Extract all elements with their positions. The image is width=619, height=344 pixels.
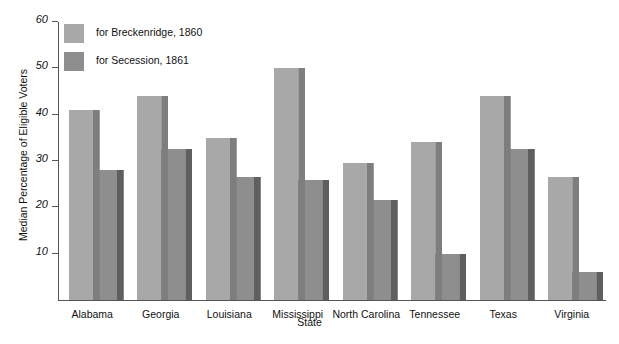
bar-side-face xyxy=(161,96,168,300)
bar-front-face xyxy=(206,138,230,300)
bar-side-face xyxy=(230,138,237,300)
bar xyxy=(137,96,161,300)
y-axis-tick-label: 10 xyxy=(36,245,48,257)
bar xyxy=(548,177,572,300)
bar-side-face xyxy=(435,142,442,300)
x-axis-tick-label: Texas xyxy=(469,308,538,320)
bar xyxy=(206,138,230,300)
bar-chart: Median Percentage of Eligible Voters Sta… xyxy=(0,0,619,344)
bar-side-face xyxy=(185,149,192,300)
bar-front-face xyxy=(274,68,298,300)
bar-group xyxy=(411,22,466,300)
bar-group xyxy=(343,22,398,300)
y-axis-tick: 50 xyxy=(52,67,58,68)
y-axis-tick-label: 50 xyxy=(36,59,48,71)
bar xyxy=(69,110,93,300)
x-axis-line xyxy=(58,300,606,301)
bar xyxy=(274,68,298,300)
bar xyxy=(480,96,504,300)
legend-swatch xyxy=(64,24,84,43)
y-axis-label: Median Percentage of Eligible Voters xyxy=(14,5,32,305)
bar xyxy=(411,142,435,300)
bar-side-face xyxy=(322,180,329,300)
bar-group xyxy=(548,22,603,300)
bar-side-face xyxy=(117,170,124,300)
x-axis-tick-label: Louisiana xyxy=(195,308,264,320)
y-axis-tick-label: 40 xyxy=(36,106,48,118)
y-axis-tick: 30 xyxy=(52,160,58,161)
x-axis-tick-label: Alabama xyxy=(58,308,127,320)
bar-group xyxy=(206,22,261,300)
bar-side-face xyxy=(367,163,374,300)
y-axis-tick: 60 xyxy=(52,21,58,22)
bar-side-face xyxy=(504,96,511,300)
legend-swatch xyxy=(64,52,84,71)
y-axis-tick-label: 30 xyxy=(36,152,48,164)
bar-side-face xyxy=(459,254,466,300)
x-axis-tick-label: Tennessee xyxy=(401,308,470,320)
y-axis-tick-label: 60 xyxy=(36,13,48,25)
bar-front-face xyxy=(343,163,367,300)
bar-front-face xyxy=(137,96,161,300)
x-axis-tick-label: Mississippi xyxy=(264,308,333,320)
bar-front-face xyxy=(480,96,504,300)
bar-front-face xyxy=(548,177,572,300)
y-axis-tick: 40 xyxy=(52,114,58,115)
bar xyxy=(343,163,367,300)
bar-group xyxy=(274,22,329,300)
bar-group xyxy=(480,22,535,300)
legend-label: for Breckenridge, 1860 xyxy=(96,26,202,38)
bar-side-face xyxy=(298,68,305,300)
bar-side-face xyxy=(254,177,261,300)
x-axis-tick-label: North Carolina xyxy=(332,308,401,320)
bar-side-face xyxy=(572,177,579,300)
bar-front-face xyxy=(69,110,93,300)
bar-side-face xyxy=(391,200,398,300)
y-axis-line xyxy=(58,22,59,300)
bar-front-face xyxy=(411,142,435,300)
y-axis-tick-label: 20 xyxy=(36,198,48,210)
legend-label: for Secession, 1861 xyxy=(96,54,189,66)
x-axis-tick-label: Virginia xyxy=(538,308,607,320)
y-axis-tick: 10 xyxy=(52,253,58,254)
bar-side-face xyxy=(596,272,603,300)
x-axis-tick-label: Georgia xyxy=(127,308,196,320)
bar-side-face xyxy=(528,149,535,300)
y-axis-tick: 20 xyxy=(52,206,58,207)
bar-side-face xyxy=(93,110,100,300)
